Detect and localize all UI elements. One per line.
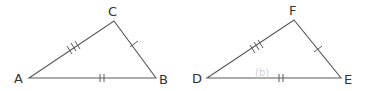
triangle-def: (b) D E F [192,3,352,87]
triangle-abc-outline [29,21,156,78]
vertex-label-f: F [289,3,296,18]
vertex-label-e: E [344,72,352,87]
vertex-label-a: A [14,71,23,86]
vertex-label-b: B [159,72,168,87]
vertex-label-c: C [108,4,117,19]
watermark-label: (b) [255,67,269,78]
triangle-def-outline [207,20,341,78]
side-ac-tick-marks [67,41,80,54]
triangle-abc: A B C [14,4,168,87]
vertex-label-d: D [192,71,202,86]
congruent-triangles-diagram: A B C (b) D E F [0,0,370,91]
